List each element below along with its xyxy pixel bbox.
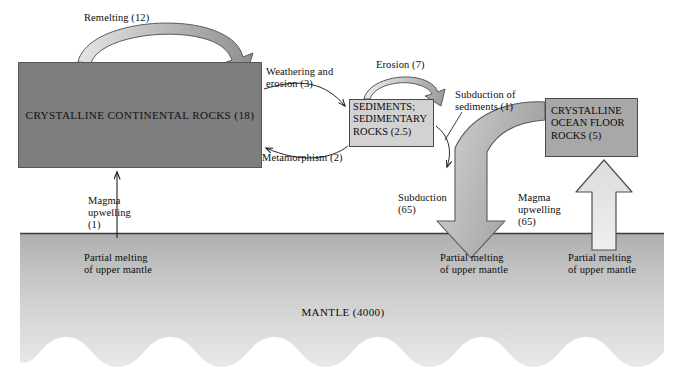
weathering-erosion-label-line1: Weathering and [266, 66, 333, 77]
erosion-label: Erosion (7) [376, 59, 425, 71]
ocean-label-line2: OCEAN FLOOR [551, 117, 625, 128]
ocean-floor-rocks-label: CRYSTALLINEOCEAN FLOORROCKS (5) [551, 105, 641, 142]
sediments-label: SEDIMENTS;SEDIMENTARYROCKS (2.5) [353, 101, 435, 138]
remelting-label: Remelting (12) [84, 12, 149, 24]
partial-melting-center-annotation: Partial meltingof upper mantle [440, 252, 508, 276]
partial-melting-right-line1: Partial melting [568, 252, 632, 263]
magma-upwelling-right-label-line1: Magma [518, 192, 551, 203]
partial-melting-center-line1: Partial melting [440, 252, 504, 263]
metamorphism-label: Metamorphism (2) [262, 152, 343, 164]
subduction-of-sediments-label: Subduction ofsediments (1) [455, 89, 516, 113]
sediments-label-line1: SEDIMENTS; [353, 101, 415, 112]
weathering-erosion-label-line2: erosion (3) [266, 78, 313, 89]
partial-melting-right-line2: of upper mantle [568, 264, 636, 275]
magma-upwelling-left-label-line1: Magma [88, 195, 121, 206]
subduction-of-sediments-arrow [436, 126, 449, 167]
subduction-label-line1: Subduction [398, 192, 447, 203]
magma-upwelling-right-label: Magmaupwelling(65) [518, 192, 561, 227]
mantle-label: MANTLE (4000) [263, 306, 423, 319]
magma-upwelling-right-label-line3: (65) [518, 216, 536, 227]
weathering-erosion-label: Weathering anderosion (3) [266, 66, 333, 90]
ocean-label-line3: ROCKS (5) [551, 130, 601, 141]
subduction-label: Subduction(65) [398, 192, 447, 216]
subduction-of-sediments-label-line1: Subduction of [455, 89, 516, 100]
sediments-label-line2: SEDIMENTARY [353, 113, 427, 124]
subduction-label-line2: (65) [398, 204, 416, 215]
partial-melting-right-annotation: Partial meltingof upper mantle [568, 252, 636, 276]
magma-upwelling-left-label-line2: upwelling [88, 207, 131, 218]
magma-upwelling-left-label: Magmaupwelling(1) [88, 195, 131, 230]
ocean-label-line1: CRYSTALLINE [551, 105, 622, 116]
subduction-of-sediments-label-line2: sediments (1) [455, 101, 513, 112]
magma-upwelling-left-label-line3: (1) [88, 219, 101, 230]
continental-rocks-label: CRYSTALLINE CONTINENTAL ROCKS (18) [24, 109, 256, 122]
partial-melting-left-line2: of upper mantle [84, 264, 152, 275]
partial-melting-center-line2: of upper mantle [440, 264, 508, 275]
magma-upwelling-right-label-line2: upwelling [518, 204, 561, 215]
sediments-label-line3: ROCKS (2.5) [353, 126, 411, 137]
partial-melting-left-annotation: Partial meltingof upper mantle [84, 252, 152, 276]
partial-melting-left-line1: Partial melting [84, 252, 148, 263]
subduction-of-sediments-leader [445, 112, 462, 140]
rock-cycle-diagram: CRYSTALLINE CONTINENTAL ROCKS (18) SEDIM… [0, 0, 684, 390]
